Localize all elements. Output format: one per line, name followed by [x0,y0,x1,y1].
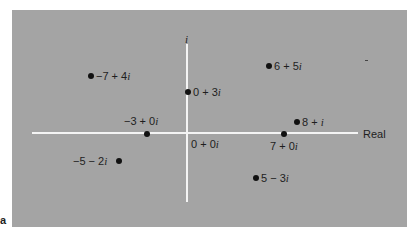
imaginary-axis [186,44,188,202]
point-label: −5 − 2i [73,155,107,167]
figure-part-letter: a [0,214,6,226]
real-axis-label: Real [363,128,386,140]
point-dot [266,63,272,69]
point-label: 7 + 0i [270,140,298,152]
point-label: 8 + i [302,116,324,128]
point-dot [144,131,150,137]
point-label: −3 + 0i [124,115,158,127]
imaginary-axis-label: i [185,33,188,45]
point-label: 6 + 5i [274,60,302,72]
point-label: 0 + 3i [193,86,221,98]
point-dot [281,131,287,137]
point-dot [294,119,300,125]
real-axis [32,132,358,134]
point-label: −7 + 4i [96,70,130,82]
point-dot [88,73,94,79]
complex-plane-panel [12,10,407,227]
point-dot [116,158,122,164]
point-label: 5 − 3i [261,172,289,184]
point-dot [185,89,191,95]
origin-label: 0 + 0i [191,138,219,150]
point-dot [253,175,259,181]
speck-mark [365,60,368,61]
